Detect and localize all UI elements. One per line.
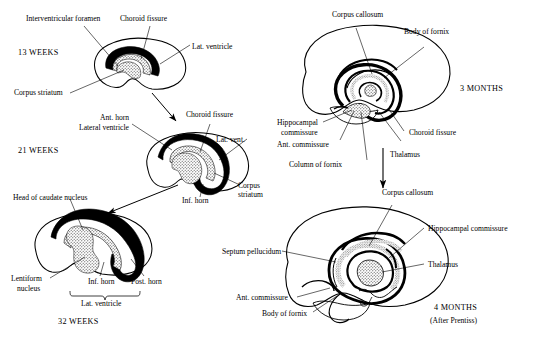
label-column-of-fornix-3m: Column of fornix: [289, 160, 342, 169]
thalamus-3m: [365, 85, 376, 96]
label-inf-horn-21w: Inf. horn: [182, 196, 209, 205]
label-corpus-21w: Corpus: [238, 181, 260, 190]
label-corpus-striatum-13w: Corpus striatum: [14, 88, 63, 97]
label-thalamus-3m: Thalamus: [390, 150, 420, 159]
panel-13-weeks: [70, 26, 190, 121]
label-body-of-fornix-3m: Body of fornix: [404, 27, 449, 36]
label-choroid-fissure-21w: Choroid fissure: [186, 110, 233, 119]
label-body-of-fornix-4m: Body of fornix: [262, 309, 307, 318]
leader-septum-pellucidum-4m: [282, 251, 336, 262]
temporal-lobe-4m: [313, 301, 370, 320]
stage-3-months: 3 MONTHS: [460, 84, 503, 93]
leader-column-fornix-3m: [361, 112, 367, 160]
arrow-21w-to-32w: [108, 185, 178, 213]
label-striatum-21w: striatum: [238, 190, 263, 199]
label-hippocampal-commissure-4m: Hippocampal commissure: [428, 224, 508, 233]
label-corpus-callosum-4m: Corpus callosum: [382, 188, 433, 197]
label-corpus-callosum-3m: Corpus callosum: [332, 10, 383, 19]
attribution-prentiss: (After Prentiss): [430, 316, 477, 325]
label-thalamus-4m: Thalamus: [428, 260, 458, 269]
label-inf-horn-32w: Inf. horn: [88, 277, 115, 286]
stage-32-weeks: 32 WEEKS: [58, 317, 99, 326]
leader-ant-commissure-3m: [340, 111, 354, 140]
label-lentiform-32w: Lentiform: [11, 274, 42, 283]
label-nucleus-32w: nucleus: [17, 284, 40, 293]
label-interventricular-foramen: Interventricular foramen: [26, 14, 100, 23]
label-lateral-ventricle-21w: Lateral ventricle: [79, 123, 129, 132]
label-lat-ventricle-13w: Lat. ventricle: [192, 42, 232, 51]
label-post-horn-32w: Post. horn: [131, 277, 162, 286]
arrow-13w-to-21w: [152, 93, 176, 121]
label-ant-commissure-3m: Ant. commissure: [277, 140, 329, 149]
label-septum-pellucidum-4m: Septum pellucidum: [222, 247, 281, 256]
leader-body-fornix-3m: [384, 47, 424, 78]
label-lat-vent-21w: Lat. vent.: [216, 135, 245, 144]
panel-4-months: [282, 205, 448, 323]
corpus-striatum-21w: [172, 153, 202, 184]
leader-corpus-striatum-13w: [70, 70, 124, 93]
stage-4-months: 4 MONTHS: [434, 303, 477, 312]
leader-interventricular-foramen: [84, 26, 118, 66]
label-commissure-3m: commissure: [281, 128, 318, 137]
stage-21-weeks: 21 WEEKS: [18, 146, 59, 155]
label-choroid-fissure-3m: Choroid fissure: [409, 128, 456, 137]
label-lat-ventricle-32w: Lat. ventricle: [81, 299, 121, 308]
ventricle-development-figure: [0, 0, 536, 337]
thalamus-4m: [357, 260, 383, 286]
label-hippocampal-3m: Hippocampal: [277, 118, 318, 127]
leader-ant-commissure-4m: [297, 288, 330, 297]
leader-body-fornix-4m: [313, 296, 337, 312]
label-choroid-fissure-13w: Choroid fissure: [120, 14, 167, 23]
label-ant-horn-21w: Ant. horn: [100, 113, 129, 122]
corpus-striatum-13w: [117, 62, 141, 79]
label-ant-commissure-4m: Ant. commissure: [236, 293, 288, 302]
leader-ant-horn-21w: [132, 124, 172, 150]
label-head-of-caudate-nucleus: Head of caudate nucleus: [13, 193, 87, 202]
ant-commissure-4m: [302, 281, 334, 291]
stage-13-weeks: 13 WEEKS: [18, 48, 59, 57]
